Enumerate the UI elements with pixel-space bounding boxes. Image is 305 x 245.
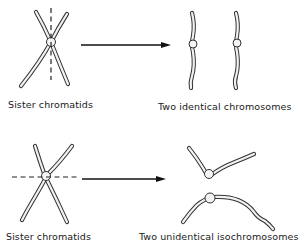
identical-chromosome-2: [233, 13, 241, 88]
centromere: [42, 172, 51, 181]
centromere: [233, 39, 241, 47]
diagram-canvas: [0, 0, 305, 245]
bottom-sister-chromatids: [22, 146, 72, 222]
label-top-sister-chromatids: Sister chromatids: [8, 99, 93, 110]
isochromosome-v: [189, 148, 254, 179]
label-two-identical-chromosomes: Two identical chromosomes: [158, 101, 292, 112]
top-arrow: [81, 42, 171, 48]
label-bottom-sister-chromatids: Sister chromatids: [6, 231, 91, 242]
label-two-unidentical-isochromosomes: Two unidentical isochromosomes: [139, 231, 299, 242]
centromere: [205, 170, 214, 179]
centromere: [205, 193, 215, 203]
identical-chromosome-1: [189, 13, 197, 88]
isochromosome-arch: [183, 193, 273, 229]
bottom-arrow: [82, 176, 166, 182]
centromere: [189, 40, 197, 48]
top-sister-chromatids: [21, 12, 68, 86]
